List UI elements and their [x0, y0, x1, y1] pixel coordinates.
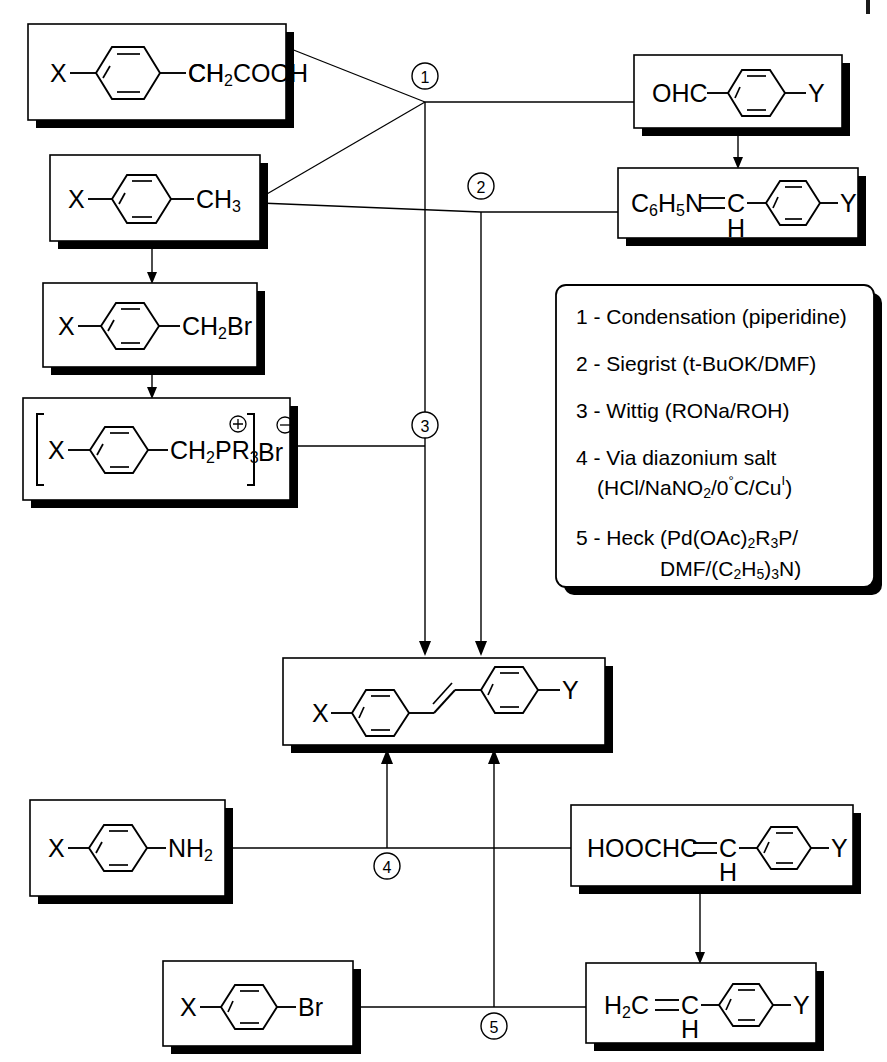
seg-sub-5: 5	[676, 202, 685, 219]
label-ch2br: CH2Br	[182, 312, 252, 342]
box-styrene[interactable]: H2C C H Y	[586, 963, 824, 1051]
legend-item-5: 5 - Heck (Pd(OAc)2R3P/	[576, 526, 798, 552]
box-toluene[interactable]: X CH3	[50, 155, 268, 249]
seg-sub-3: 3	[232, 198, 241, 215]
label-c6h5n: C6H5N	[631, 189, 703, 219]
label-ch2pr3: CH2PR3	[170, 436, 259, 466]
label-ch2cooh-text: CH2COOH	[188, 59, 308, 89]
label-methine-carbon: C	[727, 189, 745, 217]
box-benzylidene-aniline[interactable]: C6H5N C H Y	[618, 168, 866, 246]
arrowhead-anil	[733, 157, 743, 169]
label-bromide-counterion: Br	[258, 438, 283, 466]
seg-sub-2: 2	[224, 72, 233, 89]
box-cinnamic-acid[interactable]: HOOCHC C H Y	[571, 805, 861, 894]
marker-label: 5	[490, 1019, 499, 1036]
seg-cooh: COOH	[233, 59, 308, 87]
legend-item-1: 1 - Condensation (piperidine)	[576, 305, 847, 328]
seg-sub-2: 2	[622, 1004, 631, 1021]
box-stilbene-product[interactable]: X Y	[283, 658, 613, 753]
label-bromine: Br	[298, 993, 323, 1021]
label-substituent-x: X	[68, 185, 85, 213]
label-substituent-x: X	[48, 436, 65, 464]
legend-item-4: 4 - Via diazonium salt	[576, 446, 777, 469]
reaction-scheme-diagram: X CH CH2COOH X	[0, 0, 887, 1062]
seg-sub-2: 2	[206, 449, 215, 466]
label-ohc: OHC	[652, 79, 708, 107]
connector-toluene-to-node2	[260, 203, 481, 212]
marker-1[interactable]: 1	[412, 63, 438, 89]
label-methine-hydrogen: H	[727, 214, 745, 242]
label-substituent-x: X	[48, 834, 65, 862]
seg-nh: NH	[168, 834, 204, 862]
reaction-legend[interactable]: 1 - Condensation (piperidine) 2 - Siegri…	[556, 285, 882, 595]
scheme-canvas: X CH CH2COOH X	[0, 0, 887, 1062]
box-aniline[interactable]: X NH2	[30, 800, 233, 904]
legend-item-2: 2 - Siegrist (t-BuOK/DMF)	[576, 352, 816, 375]
seg-sub-6: 6	[649, 202, 658, 219]
seg-ch: CH	[182, 312, 218, 340]
marker-label: 2	[477, 179, 486, 196]
label-substituent-x: X	[312, 699, 329, 727]
label-methine-hydrogen: H	[719, 858, 737, 886]
seg-c: C	[631, 189, 649, 217]
page-corner-mark	[866, 0, 870, 14]
seg-sub-2: 2	[218, 325, 227, 342]
seg-dmf: DMF/(C	[660, 557, 733, 580]
label-substituent-y: Y	[793, 991, 810, 1019]
seg-ch: CH	[196, 185, 232, 213]
seg-h: H	[604, 991, 622, 1019]
seg-pr: PR	[215, 436, 250, 464]
marker-label: 4	[383, 859, 392, 876]
label-hoochc: HOOCHC	[587, 834, 698, 862]
seg-ch: CH	[188, 59, 224, 87]
box-benzaldehyde[interactable]: OHC Y	[634, 55, 850, 136]
box-phosphonium-salt[interactable]: X CH2PR3 Br	[23, 398, 298, 508]
box-phenylacetic-acid[interactable]: X CH CH2COOH	[28, 24, 308, 128]
arrowhead-stilbene-right	[475, 641, 487, 656]
seg-h: H	[658, 189, 676, 217]
marker-5[interactable]: 5	[481, 1013, 507, 1039]
label-substituent-y: Y	[831, 834, 848, 862]
seg-br: Br	[227, 312, 252, 340]
label-substituent-x: X	[50, 59, 67, 87]
route-markers: 1 2 3 4 5	[374, 63, 507, 1039]
box-aryl-bromide[interactable]: X Br	[163, 961, 361, 1054]
marker-2[interactable]: 2	[468, 173, 494, 199]
label-substituent-y: Y	[562, 676, 579, 704]
label-substituent-x: X	[58, 312, 75, 340]
seg-c: C	[631, 991, 649, 1019]
marker-3[interactable]: 3	[412, 412, 438, 438]
seg-ch: CH	[170, 436, 206, 464]
label-methine-hydrogen: H	[681, 1015, 699, 1043]
label-substituent-y: Y	[808, 79, 825, 107]
label-substituent-x: X	[180, 993, 197, 1021]
marker-label: 3	[421, 418, 430, 435]
seg-n: N	[685, 189, 703, 217]
seg-sub-2: 2	[204, 847, 213, 864]
legend-item-3: 3 - Wittig (RONa/ROH)	[576, 399, 790, 422]
box-benzyl-bromide[interactable]: X CH2Br	[43, 283, 265, 375]
legend-item-4-line2: (HCl/NaNO2/0°C/CuI)	[597, 473, 792, 502]
seg-heck: 5 - Heck (Pd(OAc)	[576, 526, 748, 549]
label-substituent-y: Y	[840, 189, 857, 217]
marker-4[interactable]: 4	[374, 853, 400, 879]
arrowhead-stilbene-left	[419, 641, 431, 656]
legend-item-5-line2: DMF/(C2H5)3N)	[660, 557, 801, 583]
seg-open: (HCl/NaNO	[597, 476, 703, 499]
marker-label: 1	[421, 69, 430, 86]
